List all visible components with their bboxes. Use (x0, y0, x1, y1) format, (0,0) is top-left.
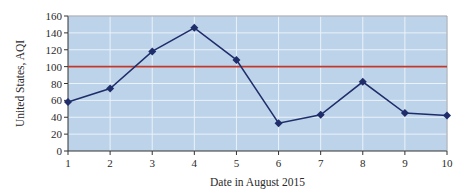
y-axis-title: United States, AQI (14, 40, 27, 127)
line-chart: 020406080100120140160 12345678910 United… (0, 0, 469, 196)
y-tick-label: 20 (51, 128, 63, 140)
x-axis-title: Date in August 2015 (210, 176, 305, 189)
y-tick-label: 60 (51, 94, 63, 106)
x-tick-label: 5 (234, 157, 240, 169)
x-axis-ticks: 12345678910 (65, 151, 453, 169)
y-tick-label: 160 (46, 10, 63, 22)
y-axis-ticks: 020406080100120140160 (46, 10, 69, 157)
x-tick-label: 10 (442, 157, 454, 169)
x-tick-label: 2 (107, 157, 113, 169)
y-tick-label: 120 (46, 44, 63, 56)
y-tick-label: 80 (51, 78, 63, 90)
x-tick-label: 7 (318, 157, 324, 169)
x-tick-label: 1 (65, 157, 71, 169)
y-tick-label: 0 (57, 145, 63, 157)
y-tick-label: 140 (46, 27, 63, 39)
x-tick-label: 9 (402, 157, 408, 169)
y-tick-label: 40 (51, 111, 63, 123)
x-tick-label: 4 (192, 157, 198, 169)
y-tick-label: 100 (46, 61, 63, 73)
x-tick-label: 6 (276, 157, 282, 169)
x-tick-label: 8 (360, 157, 366, 169)
x-tick-label: 3 (149, 157, 155, 169)
